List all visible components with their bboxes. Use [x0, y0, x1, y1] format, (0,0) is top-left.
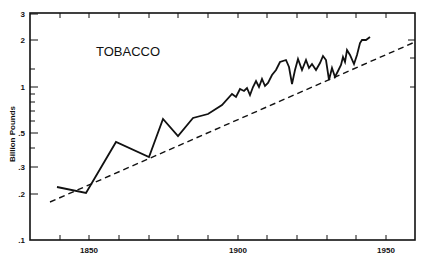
y-tick-label: .5 [18, 129, 25, 138]
x-tick-label: 1900 [229, 246, 247, 255]
x-tick-label: 1850 [80, 246, 98, 255]
chart-title: TOBACCO [96, 44, 160, 59]
y-tick-label: .1 [18, 236, 25, 245]
right-ticks [408, 40, 415, 87]
y-tick-label: 3 [21, 10, 26, 19]
y-tick-label: .2 [18, 190, 25, 199]
y-tick-label: .3 [18, 163, 25, 172]
y-ticks [30, 14, 38, 194]
chart: 3 2 1 .5 .3 .2 .1 1850 1900 1950 Billion… [0, 0, 423, 261]
tobacco-series-line [57, 37, 370, 193]
x-tick-label: 1950 [377, 246, 395, 255]
y-tick-label: 2 [21, 36, 26, 45]
plot-frame [30, 13, 415, 240]
trend-line [50, 42, 415, 202]
y-axis-label: Billion Pounds [8, 105, 17, 162]
y-tick-label: 1 [21, 83, 26, 92]
